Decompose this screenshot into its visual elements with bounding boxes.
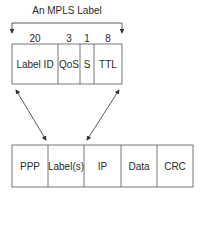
packet-labels: Label(s) [48, 145, 84, 187]
packet-ip: IP [84, 145, 121, 187]
field-label-id: Label ID [12, 44, 58, 84]
field-ttl: TTL [94, 44, 122, 84]
bits-ttl: 8 [94, 33, 122, 44]
packet-ppp: PPP [12, 145, 48, 187]
bits-qos: 3 [58, 33, 80, 44]
bits-s: 1 [80, 33, 94, 44]
bits-label-id: 20 [12, 33, 58, 44]
field-s: S [80, 44, 94, 84]
field-qos: QoS [58, 44, 80, 84]
packet-crc: CRC [157, 145, 193, 187]
packet-data: Data [121, 145, 157, 187]
